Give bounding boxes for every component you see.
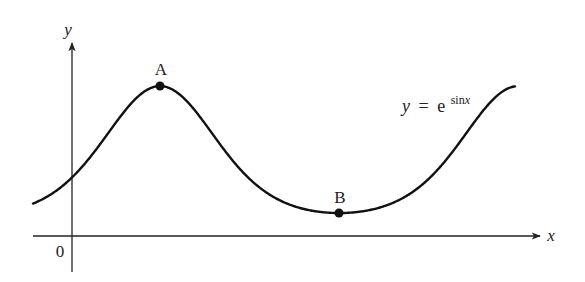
function-label-lhs: y: [400, 96, 410, 116]
function-label: y = e sinx: [400, 93, 471, 116]
function-label-equals: =: [419, 96, 429, 116]
function-graph: A B y x 0 y = e sinx: [0, 0, 585, 282]
function-label-exponent-var: x: [464, 93, 471, 107]
function-label-exponent: sin: [451, 93, 465, 107]
function-label-base: e: [437, 96, 445, 116]
point-a-marker: [156, 82, 165, 91]
point-b-marker: [335, 209, 344, 218]
point-b-label: B: [334, 188, 345, 207]
point-a-label: A: [155, 60, 168, 79]
origin-label: 0: [56, 242, 65, 261]
x-axis-label: x: [546, 226, 555, 245]
y-axis-label: y: [62, 20, 72, 39]
